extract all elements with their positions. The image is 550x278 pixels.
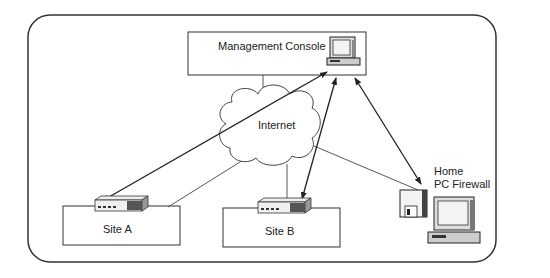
arrow-console-home [355, 78, 421, 184]
line-internet-home [314, 146, 418, 190]
internet-label: Internet [258, 119, 295, 131]
home-label: Home [434, 165, 463, 177]
pc-firewall-label: PC Firewall [434, 178, 490, 190]
desktop-computer-icon [327, 37, 360, 65]
firewall-appliance-icon [95, 196, 148, 211]
management-console-label: Management Console [218, 40, 326, 52]
pc-with-floppy-disk-icon [400, 190, 480, 243]
site-b-label: Site B [265, 225, 294, 237]
site-a-label: Site A [103, 223, 132, 235]
line-internet-site-a [168, 157, 248, 207]
firewall-appliance-icon [258, 198, 311, 213]
